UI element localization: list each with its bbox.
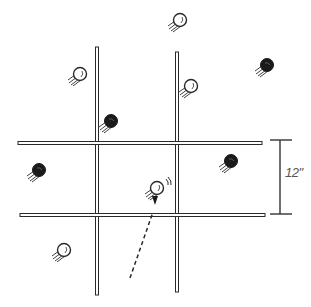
horizontal-line-2 bbox=[20, 214, 265, 217]
ball-lower-left-icon bbox=[52, 244, 71, 263]
trajectory-line bbox=[130, 212, 153, 278]
vertical-line-1 bbox=[96, 47, 99, 295]
tic-tac-toe-ball-diagram bbox=[0, 0, 311, 307]
ball-top-icon bbox=[168, 14, 187, 33]
ball-right-middle-icon bbox=[219, 155, 238, 174]
ball-near-line1-icon bbox=[99, 115, 118, 134]
vertical-line-2 bbox=[176, 52, 179, 292]
dimension-label: 12" bbox=[285, 165, 303, 180]
balls-layer bbox=[27, 14, 274, 263]
dashed-trajectory-line bbox=[130, 212, 153, 278]
motion-mark-icon bbox=[166, 179, 168, 185]
arrow-marker-icon bbox=[152, 196, 158, 205]
ball-center-target-icon bbox=[145, 177, 171, 205]
ball-upper-left-icon bbox=[68, 68, 87, 87]
horizontal-line-1 bbox=[18, 142, 262, 145]
ball-left-middle-icon bbox=[27, 164, 46, 183]
ball-upper-right-icon bbox=[255, 59, 274, 78]
ball-near-line2-icon bbox=[179, 80, 198, 99]
